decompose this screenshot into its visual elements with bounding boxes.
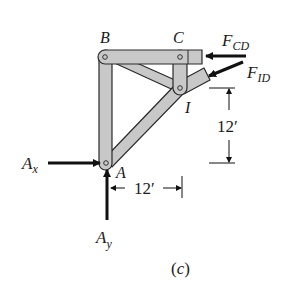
member-AB <box>99 50 112 170</box>
label-FID: FID <box>246 63 270 85</box>
member-AI <box>103 84 184 167</box>
label-joint-C: C <box>173 29 184 46</box>
member-BC <box>98 50 202 64</box>
label-Ax: Ax <box>21 154 38 176</box>
label-Ay: Ay <box>95 228 112 251</box>
figure-caption: (c) <box>171 259 190 278</box>
label-joint-I: I <box>184 99 191 116</box>
truss-free-body-diagram: B C I A FCD FID Ax Ay 12′ 12′ (c) <box>0 0 302 303</box>
label-dimension-vertical: 12′ <box>217 117 238 136</box>
label-joint-A: A <box>115 164 126 181</box>
label-FCD: FCD <box>221 31 249 53</box>
label-dimension-horizontal: 12′ <box>134 179 155 198</box>
label-joint-B: B <box>100 29 110 46</box>
arrow-FID <box>209 62 243 76</box>
